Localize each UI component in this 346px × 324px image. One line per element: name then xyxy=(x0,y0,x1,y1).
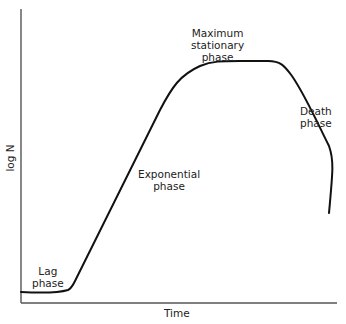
death-phase-label: Death phase xyxy=(300,105,332,129)
stationary-phase-label: Maximum stationary phase xyxy=(191,27,244,63)
x-axis-label: Time xyxy=(164,307,190,319)
lag-phase-label: Lag phase xyxy=(32,265,64,289)
exponential-phase-label: Exponential phase xyxy=(138,168,200,192)
y-axis-label: log N xyxy=(4,144,16,171)
